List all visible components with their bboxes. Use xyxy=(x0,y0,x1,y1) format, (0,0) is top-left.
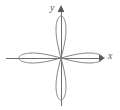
y-axis-arrowhead xyxy=(58,5,65,12)
polar-rose-plot xyxy=(0,0,120,110)
figure-container: y x xyxy=(0,0,120,110)
x-axis-label: x xyxy=(108,51,112,61)
y-axis-label: y xyxy=(50,3,54,13)
